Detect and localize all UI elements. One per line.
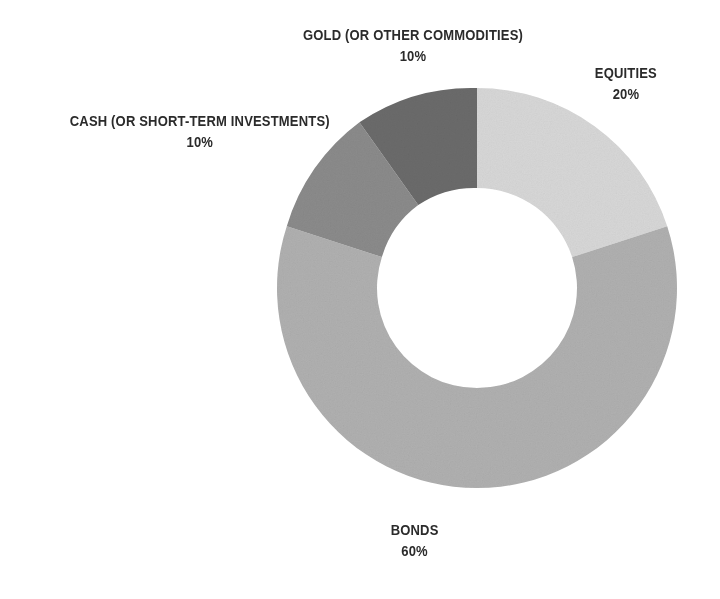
slice-label-gold: GOLD (OR OTHER COMMODITIES) 10%: [413, 24, 633, 67]
slice-label-cash-name: CASH (OR SHORT-TERM INVESTMENTS): [70, 110, 330, 131]
slice-label-cash-value: 10%: [70, 131, 330, 152]
donut-slice-bonds: [277, 226, 677, 488]
slice-label-equities-value: 20%: [595, 83, 657, 104]
donut-slice-equities: [477, 88, 667, 257]
donut-chart-figure: GOLD (OR OTHER COMMODITIES) 10% EQUITIES…: [0, 0, 720, 599]
slice-label-gold-value: 10%: [303, 45, 523, 66]
slice-label-bonds: BONDS 60%: [415, 519, 463, 562]
slice-label-equities: EQUITIES 20%: [626, 62, 688, 105]
slice-label-equities-name: EQUITIES: [595, 62, 657, 83]
slice-label-cash: CASH (OR SHORT-TERM INVESTMENTS) 10%: [200, 110, 460, 153]
slice-label-gold-name: GOLD (OR OTHER COMMODITIES): [303, 24, 523, 45]
slice-label-bonds-name: BONDS: [391, 519, 439, 540]
slice-label-bonds-value: 60%: [391, 540, 439, 561]
